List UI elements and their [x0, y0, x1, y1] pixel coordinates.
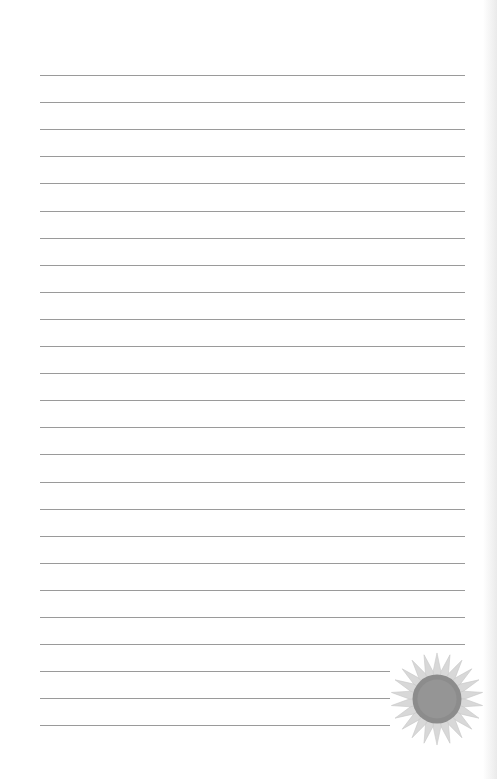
ruled-line	[40, 292, 465, 293]
ruled-line	[40, 617, 465, 618]
ruled-line	[40, 183, 465, 184]
ruled-line	[40, 400, 465, 401]
ruled-line	[40, 346, 465, 347]
ruled-line	[40, 482, 465, 483]
ruled-line	[40, 725, 390, 726]
ruled-line	[40, 536, 465, 537]
ruled-line	[40, 427, 465, 428]
ruled-line	[40, 156, 465, 157]
ruled-line	[40, 590, 465, 591]
ruled-line	[40, 265, 465, 266]
ruled-line	[40, 211, 465, 212]
ruled-line	[40, 563, 465, 564]
ruled-line	[40, 373, 465, 374]
ruled-line	[40, 238, 465, 239]
ruled-line	[40, 671, 390, 672]
ruled-line	[40, 454, 465, 455]
sunflower-icon	[388, 650, 486, 748]
ruled-line	[40, 698, 390, 699]
ruled-line	[40, 75, 465, 76]
ruled-line	[40, 319, 465, 320]
notebook-page	[0, 0, 497, 779]
ruled-line	[40, 129, 465, 130]
ruled-line	[40, 102, 465, 103]
ruled-line	[40, 644, 465, 645]
ruled-line	[40, 509, 465, 510]
